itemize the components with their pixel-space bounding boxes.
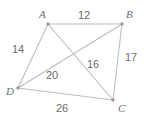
edge-length-ad: 14 — [12, 44, 24, 55]
diagonal-length-ac: 16 — [87, 59, 99, 70]
vertex-label-b: B — [126, 9, 133, 20]
vertex-label-c: C — [118, 103, 125, 114]
edge-length-ab: 12 — [78, 10, 90, 21]
geometry-diagram: A B C D 12 14 17 26 16 20 — [0, 0, 147, 119]
quadrilateral-edges — [18, 24, 122, 100]
quadrilateral-diagonals — [18, 24, 122, 100]
diagonal-length-db: 20 — [46, 70, 58, 81]
edge-length-dc: 26 — [56, 103, 68, 114]
vertex-label-a: A — [39, 9, 46, 20]
edge-bc-line — [113, 24, 122, 100]
edge-dc-line — [18, 88, 113, 100]
vertex-dot-b — [120, 22, 123, 25]
vertex-dot-d — [16, 86, 19, 89]
edge-length-bc: 17 — [125, 52, 137, 63]
vertex-dot-c — [111, 98, 114, 101]
vertex-dot-a — [46, 22, 49, 25]
vertex-label-d: D — [6, 86, 14, 97]
